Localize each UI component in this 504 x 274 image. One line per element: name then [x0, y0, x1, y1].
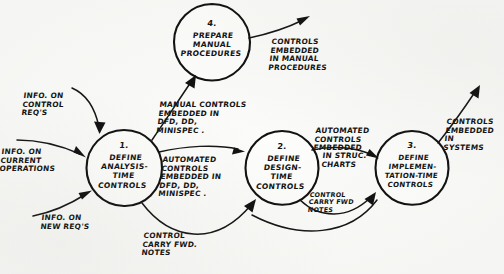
- flow-label-manual-controls-embedded: MANUAL CONTROLS EMBEDDED IN DFD, DD, MIN…: [156, 101, 247, 135]
- process-2-number: 2.: [257, 142, 306, 152]
- process-4-number: 4.: [187, 19, 236, 29]
- flow-label-info-new-reqs: INFO. ON NEW REQ'S: [40, 214, 91, 231]
- flow-arrow-info-control-reqs[interactable]: [72, 88, 99, 127]
- process-1-label: DEFINE ANALYSIS- TIME CONTROLS: [86, 153, 163, 190]
- flow-arrow-control-carry-fwd-notes-1to2[interactable]: [142, 203, 251, 234]
- flow-arrow-automated-controls-dfd[interactable]: [159, 146, 238, 152]
- dfd-canvas: 4. PREPARE MANUAL PROCEDURES 1. DEFINE A…: [0, 0, 504, 274]
- arrowhead-manual-controls-embedded: [185, 75, 196, 89]
- arrowhead-info-control-reqs: [94, 122, 106, 135]
- flow-label-controls-embedded-in-systems: CONTROLS EMBEDDED IN SYSTEMS: [443, 118, 496, 152]
- flow-arrow-controls-embedded-manual-procedures[interactable]: [249, 20, 303, 38]
- flow-label-automated-controls-dfd: AUTOMATED CONTROLS EMBEDDED IN DFD, DD, …: [158, 156, 224, 199]
- flow-label-control-carry-fwd-notes-2to3: CONTROL CARRY FWD NOTES: [307, 192, 355, 214]
- arrowhead-info-current-operations: [74, 146, 87, 158]
- process-3-label: DEFINE IMPLEMEN- TATION-TIME CONTROLS: [374, 153, 450, 189]
- flow-label-info-control-reqs: INFO. ON CONTROL REQ'S: [21, 92, 66, 118]
- flow-label-control-carry-fwd-notes-1to2: CONTROL CARRY FWD. NOTES: [141, 232, 199, 258]
- flow-label-info-current-operations: INFO. ON CURRENT OPERATIONS: [0, 148, 58, 174]
- process-4-label: PREPARE MANUAL PROCEDURES: [174, 31, 249, 59]
- process-1-number: 1.: [99, 141, 148, 151]
- arrowhead-controls-embedded-manual-procedures: [297, 16, 311, 26]
- process-2-label: DEFINE DESIGN- TIME CONTROLS: [244, 154, 321, 191]
- dfd-vector-layer: [0, 0, 504, 274]
- flow-label-automated-controls-embedded: AUTOMATED CONTROLS EMBEDDED: [313, 127, 370, 153]
- process-3-number: 3.: [387, 141, 436, 151]
- flow-label-in-struc-charts: IN STRUC. CHARTS: [321, 152, 367, 169]
- arrowhead-controls-embedded-in-systems: [470, 85, 481, 99]
- flow-label-controls-embedded-manual-procedures: CONTROLS EMBEDDED IN MANUAL PROCEDURES: [268, 38, 331, 72]
